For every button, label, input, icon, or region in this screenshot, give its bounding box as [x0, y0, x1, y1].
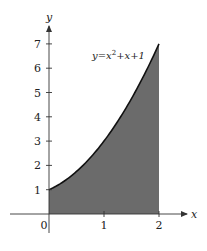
y-tick-label: 1: [34, 184, 41, 197]
area-under-curve-chart: 012 1234567 x y y=x2+x+1: [0, 0, 207, 251]
y-tick-label: 4: [34, 111, 41, 124]
y-tick-label: 3: [34, 135, 41, 148]
function-annotation: y=x2+x+1: [91, 49, 145, 61]
y-axis-label: y: [45, 11, 53, 24]
x-tick-label: 0: [41, 219, 48, 232]
y-tick-label: 7: [34, 38, 41, 51]
x-tick-label: 2: [156, 219, 163, 232]
y-tick-label: 6: [34, 62, 41, 75]
x-axis-label: x: [191, 208, 198, 221]
y-tick-label: 2: [34, 159, 41, 172]
shaded-area: [49, 44, 159, 214]
x-tick-label: 1: [101, 219, 108, 232]
y-tick-label: 5: [34, 87, 41, 100]
